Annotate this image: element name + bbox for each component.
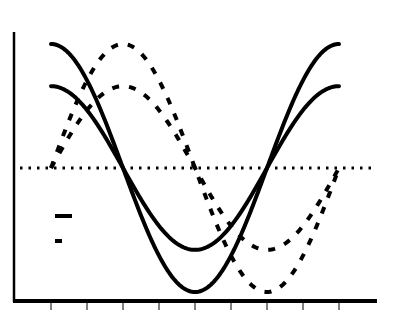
x-axis-ticks — [51, 302, 339, 310]
series-group — [51, 44, 339, 292]
legend — [55, 216, 72, 241]
sine-cosine-chart — [0, 0, 402, 328]
dashed-curve-small — [51, 86, 339, 250]
